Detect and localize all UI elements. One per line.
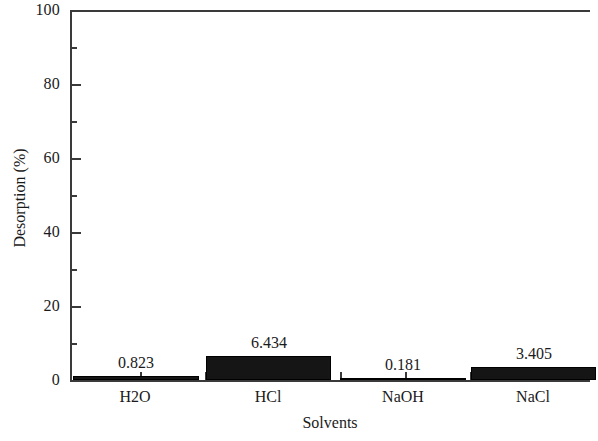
x-tick-label-h2o: H2O <box>75 388 195 406</box>
y-tick-label: 100 <box>14 2 60 18</box>
bar-value-label-h2o: 0.823 <box>71 354 201 371</box>
y-tick-minor <box>72 343 77 345</box>
bar-value-label-hcl: 6.434 <box>204 334 334 351</box>
y-tick-minor <box>72 269 77 271</box>
y-tick-label: 20 <box>14 298 60 314</box>
x-tick-label-hcl: HCl <box>208 388 328 406</box>
y-tick-major <box>72 10 81 12</box>
y-tick-label-holder: 100 <box>14 2 60 18</box>
y-axis-title: Desorption (%) <box>12 118 28 278</box>
y-tick-major <box>72 380 81 382</box>
bar-h2o <box>73 376 199 380</box>
x-tick-label-naoh: NaOH <box>343 388 463 406</box>
bar-naoh <box>340 378 466 380</box>
bar-value-label-naoh: 0.181 <box>338 356 468 373</box>
y-tick-label: 0 <box>14 372 60 388</box>
y-tick-label-holder: 20 <box>14 298 60 314</box>
y-tick-minor <box>72 195 77 197</box>
bar-chart-figure: 100 80 60 40 20 0 0.823 6.434 0.181 3.40… <box>0 0 598 441</box>
y-tick-label: 80 <box>14 76 60 92</box>
y-tick-major <box>72 84 81 86</box>
bar-nacl <box>471 367 596 380</box>
x-tick <box>70 372 72 381</box>
plot-top-border <box>70 10 590 12</box>
bar-value-label-nacl: 3.405 <box>469 345 598 362</box>
bar-hcl <box>206 356 331 380</box>
y-tick-label-holder: 0 <box>14 372 60 388</box>
y-tick-minor <box>72 121 77 123</box>
x-axis-line <box>70 380 590 382</box>
x-tick-label-nacl: NaCl <box>473 388 593 406</box>
y-tick-major <box>72 232 81 234</box>
y-tick-major <box>72 158 81 160</box>
y-tick-major <box>72 306 81 308</box>
x-axis-title: Solvents <box>70 414 590 432</box>
y-tick-minor <box>72 47 77 49</box>
y-tick-label-holder: 80 <box>14 76 60 92</box>
